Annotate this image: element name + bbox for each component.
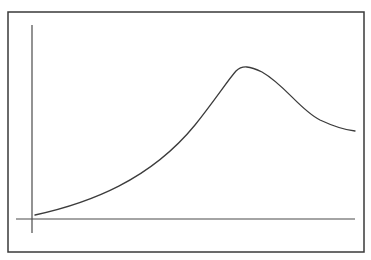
figure-frame	[8, 12, 364, 252]
figure	[0, 0, 371, 260]
chart-canvas	[0, 0, 371, 260]
